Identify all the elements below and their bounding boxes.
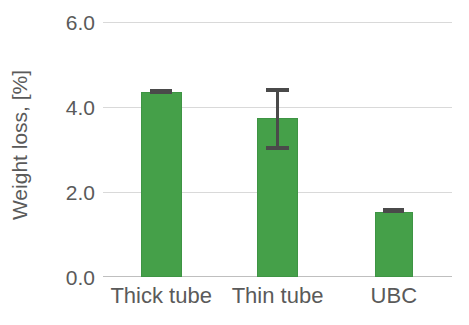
- x-tick-label-ubc: UBC: [371, 285, 417, 307]
- bar-chart: Weight loss, [%] 6.0 4.0 2.0 0.0: [0, 0, 469, 325]
- errorbar-cap-bottom: [266, 146, 289, 150]
- errorbar-thick-tube: [150, 89, 172, 94]
- y-tick-label-6: 6.0: [33, 12, 95, 33]
- bar-ubc[interactable]: [375, 212, 413, 277]
- errorbar-cap-bottom: [383, 209, 404, 213]
- errorbar-ubc: [383, 208, 404, 213]
- errorbar-cap-bottom: [150, 90, 172, 94]
- errorbar-stem: [276, 88, 279, 150]
- y-axis-title-text: Weight loss, [%]: [8, 70, 32, 220]
- bar-thick-tube[interactable]: [141, 92, 182, 277]
- x-tick-label-thin-tube: Thin tube: [232, 285, 324, 307]
- y-tick-label-2: 2.0: [33, 182, 95, 203]
- x-axis-tick-labels: Thick tube Thin tube UBC: [0, 285, 469, 325]
- plot-area: [103, 22, 452, 277]
- y-tick-label-4: 4.0: [33, 97, 95, 118]
- y-axis-tick-labels: 6.0 4.0 2.0 0.0: [33, 0, 95, 325]
- errorbar-thin-tube: [266, 88, 289, 150]
- errorbar-cap-top: [266, 88, 289, 92]
- gridline-6: [103, 22, 452, 23]
- x-tick-label-thick-tube: Thick tube: [110, 285, 212, 307]
